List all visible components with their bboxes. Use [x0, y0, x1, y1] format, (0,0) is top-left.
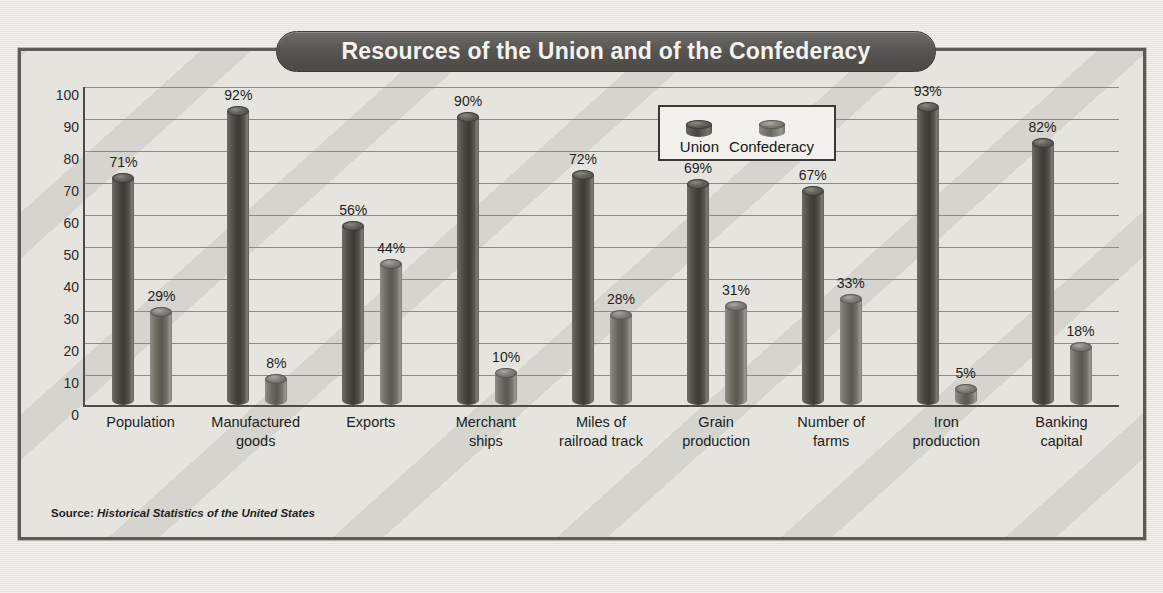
bar-value-label: 8% — [266, 355, 286, 371]
bar-value-label: 10% — [492, 349, 520, 365]
bar-group: 72%28% — [545, 87, 660, 405]
bar-group: 92%8% — [200, 87, 315, 405]
bar-confederacy: 18% — [1070, 342, 1092, 405]
source-note: Source: Historical Statistics of the Uni… — [51, 507, 315, 519]
x-axis-category-label: Population — [83, 413, 198, 450]
bar-confederacy: 10% — [495, 368, 517, 405]
bar-value-label: 71% — [109, 154, 137, 170]
bar-union: 92% — [227, 106, 249, 405]
bar-union: 71% — [112, 173, 134, 405]
bar-group: 56%44% — [315, 87, 430, 405]
y-axis-tick-label: 50 — [63, 248, 79, 262]
x-axis-category-labels: PopulationManufacturedgoodsExportsMercha… — [83, 413, 1119, 450]
bar-union: 82% — [1032, 138, 1054, 405]
bar-value-label: 5% — [956, 365, 976, 381]
bar-confederacy: 44% — [380, 259, 402, 405]
legend-item-union: Union — [680, 120, 719, 155]
bar-value-label: 90% — [454, 93, 482, 109]
x-axis-category-label: Number offarms — [774, 413, 889, 450]
bar-confederacy: 5% — [955, 384, 977, 405]
bar-value-label: 18% — [1067, 323, 1095, 339]
bar-value-label: 28% — [607, 291, 635, 307]
bar-group: 93%5% — [889, 87, 1004, 405]
y-axis-tick-label: 40 — [63, 280, 79, 294]
bar-confederacy: 8% — [265, 374, 287, 405]
plot-area: 71%29%92%8%56%44%90%10%72%28%69%31%67%33… — [83, 87, 1119, 407]
bar-union: 72% — [572, 170, 594, 405]
bar-value-label: 31% — [722, 282, 750, 298]
bar-union: 69% — [687, 179, 709, 405]
bar-group: 82%18% — [1004, 87, 1119, 405]
bar-group: 90%10% — [430, 87, 545, 405]
source-label: Source: — [51, 507, 94, 519]
bar-confederacy: 29% — [150, 307, 172, 405]
x-axis-category-label: Manufacturedgoods — [198, 413, 313, 450]
x-axis-category-label: Ironproduction — [889, 413, 1004, 450]
bar-union: 90% — [457, 112, 479, 405]
x-axis-category-label: Miles ofrailroad track — [543, 413, 658, 450]
y-axis-tick-label: 10 — [63, 376, 79, 390]
x-axis-category-label: Bankingcapital — [1004, 413, 1119, 450]
bar-union: 93% — [917, 102, 939, 405]
y-axis-tick-label: 70 — [63, 184, 79, 198]
bar-group: 71%29% — [85, 87, 200, 405]
bar-value-label: 93% — [914, 83, 942, 99]
legend-item-confederacy: Confederacy — [729, 120, 814, 155]
bar-union: 67% — [802, 186, 824, 405]
chart-figure: Resources of the Union and of the Confed… — [18, 48, 1146, 540]
legend-label-union: Union — [680, 138, 719, 155]
cylinder-swatch-icon — [759, 120, 785, 137]
bar-value-label: 56% — [339, 202, 367, 218]
x-axis-category-label: Grainproduction — [659, 413, 774, 450]
x-axis-category-label: Exports — [313, 413, 428, 450]
bar-value-label: 29% — [147, 288, 175, 304]
chart-title-banner: Resources of the Union and of the Confed… — [276, 31, 936, 72]
y-axis-tick-label: 90 — [63, 120, 79, 134]
page-title: Resources of the Union and of the Confed… — [341, 38, 870, 65]
bar-confederacy: 28% — [610, 310, 632, 405]
bar-confederacy: 33% — [840, 294, 862, 405]
y-axis-tick-label: 20 — [63, 344, 79, 358]
bar-groups: 71%29%92%8%56%44%90%10%72%28%69%31%67%33… — [85, 87, 1119, 405]
bar-value-label: 92% — [224, 87, 252, 103]
y-axis-tick-label: 100 — [56, 88, 79, 102]
y-axis-tick-label: 80 — [63, 152, 79, 166]
bar-confederacy: 31% — [725, 301, 747, 405]
y-axis-tick-labels: 0102030405060708090100 — [51, 87, 81, 407]
bar-value-label: 72% — [569, 151, 597, 167]
y-axis-tick-label: 0 — [71, 408, 79, 422]
source-text: Historical Statistics of the United Stat… — [97, 507, 315, 519]
bar-union: 56% — [342, 221, 364, 405]
plot-container: 0102030405060708090100 71%29%92%8%56%44%… — [51, 87, 1119, 537]
y-axis-tick-label: 30 — [63, 312, 79, 326]
y-axis-tick-label: 60 — [63, 216, 79, 230]
bar-value-label: 44% — [377, 240, 405, 256]
x-axis-category-label: Merchantships — [428, 413, 543, 450]
cylinder-swatch-icon — [686, 120, 712, 137]
chart-legend: Union Confederacy — [658, 105, 836, 161]
bar-value-label: 69% — [684, 160, 712, 176]
bar-value-label: 82% — [1029, 119, 1057, 135]
legend-label-confederacy: Confederacy — [729, 138, 814, 155]
bar-value-label: 67% — [799, 167, 827, 183]
bar-value-label: 33% — [837, 275, 865, 291]
